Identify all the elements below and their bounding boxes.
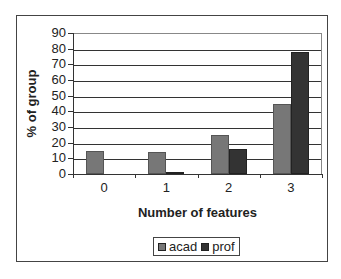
bar-acad-3	[273, 104, 291, 175]
x-tick-mark	[73, 174, 74, 178]
y-tick-mark	[68, 158, 73, 159]
x-tick-mark	[322, 174, 323, 178]
y-axis	[73, 33, 74, 174]
y-tick-mark	[68, 80, 73, 81]
y-tick-mark	[68, 33, 73, 34]
legend: acad prof	[153, 237, 240, 256]
y-tick-mark	[68, 96, 73, 97]
y-tick-mark	[68, 49, 73, 50]
bar-prof-1	[166, 172, 184, 174]
y-tick-label: 70	[36, 57, 66, 70]
y-axis-title: % of group	[24, 59, 39, 149]
gridline	[73, 97, 321, 98]
y-tick-label: 30	[36, 120, 66, 133]
legend-label-acad: acad	[169, 239, 197, 254]
bar-acad-0	[86, 151, 104, 175]
y-tick-label: 60	[36, 73, 66, 86]
y-tick-label: 20	[36, 136, 66, 149]
gridline	[73, 50, 321, 51]
x-tick-mark	[260, 174, 261, 178]
y-tick-mark	[68, 64, 73, 65]
y-tick-label: 50	[36, 89, 66, 102]
y-tick-label: 0	[36, 167, 66, 180]
gridline	[73, 65, 321, 66]
bar-acad-1	[148, 152, 166, 174]
legend-swatch-acad	[158, 243, 166, 251]
legend-item-prof: prof	[201, 239, 234, 254]
x-tick-label: 2	[214, 180, 244, 195]
y-tick-label: 10	[36, 151, 66, 164]
y-tick-mark	[68, 127, 73, 128]
y-tick-mark	[68, 111, 73, 112]
y-tick-label: 80	[36, 42, 66, 55]
bar-prof-2	[229, 149, 247, 174]
legend-item-acad: acad	[158, 239, 197, 254]
x-tick-mark	[198, 174, 199, 178]
y-tick-label: 40	[36, 104, 66, 117]
y-tick-label: 90	[36, 26, 66, 39]
bar-acad-2	[211, 135, 229, 174]
x-tick-label: 1	[151, 180, 181, 195]
x-tick-label: 3	[276, 180, 306, 195]
x-tick-label: 0	[89, 180, 119, 195]
y-tick-mark	[68, 143, 73, 144]
legend-swatch-prof	[201, 243, 209, 251]
x-axis-title: Number of features	[73, 205, 322, 220]
bar-prof-3	[291, 52, 309, 174]
legend-label-prof: prof	[212, 239, 234, 254]
x-tick-mark	[135, 174, 136, 178]
gridline	[73, 81, 321, 82]
